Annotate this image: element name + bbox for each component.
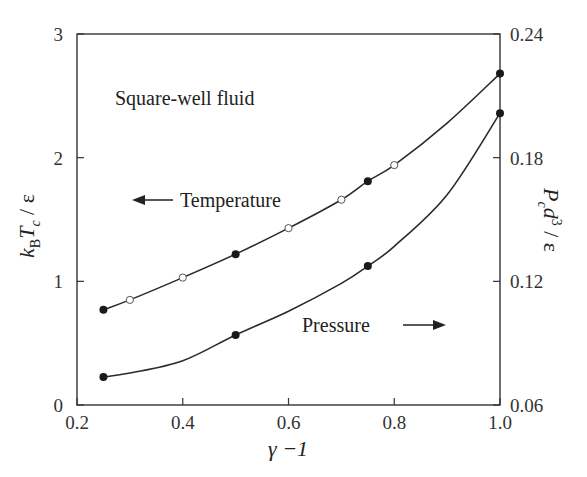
chart: 0.20.40.60.81.001230.060.120.180.24 Squa… (0, 0, 587, 477)
chart-annotation: Square-well fluid (115, 87, 254, 110)
y-right-tick-label: 0.12 (510, 271, 543, 292)
arrow-left-head-icon (132, 195, 145, 205)
temperature-label-group: Temperature (132, 189, 281, 212)
y-right-tick-label: 0.18 (510, 148, 543, 169)
svg-text:kBTc / ε: kBTc / ε (14, 194, 43, 258)
y-right-tick-label: 0.24 (510, 24, 544, 45)
temperature-filled-point (99, 306, 107, 314)
temperature-open-point (179, 274, 186, 281)
x-tick-label: 0.4 (171, 412, 195, 433)
y-axis-right-title: Pcd3 / ε (535, 187, 564, 252)
y-left-tick-label: 1 (54, 271, 64, 292)
pressure-filled-point (364, 262, 372, 270)
temperature-open-point (126, 296, 133, 303)
temperature-open-point (285, 225, 292, 232)
x-tick-label: 0.6 (277, 412, 301, 433)
pressure-curve (103, 113, 500, 377)
pressure-filled-point (232, 331, 240, 339)
pressure-filled-point (496, 109, 504, 117)
temperature-filled-point (232, 250, 240, 258)
y-left-tick-label: 0 (54, 395, 64, 416)
temperature-filled-point (496, 70, 504, 78)
temperature-label: Temperature (180, 189, 281, 212)
axis-ticks: 0.20.40.60.81.001230.060.120.180.24 (54, 24, 544, 433)
y-left-tick-label: 3 (54, 24, 64, 45)
svg-text:Pcd3 / ε: Pcd3 / ε (535, 187, 564, 252)
y-left-tick-label: 2 (54, 148, 64, 169)
temperature-curve (103, 74, 500, 310)
x-tick-label: 1.0 (488, 412, 512, 433)
y-axis-left-title: kBTc / ε (14, 194, 43, 258)
temperature-open-point (338, 196, 345, 203)
temperature-open-point (391, 161, 398, 168)
x-tick-label: 0.8 (382, 412, 406, 433)
pressure-label-group: Pressure (302, 314, 446, 336)
temperature-filled-point (364, 177, 372, 185)
x-tick-label: 0.2 (65, 412, 89, 433)
x-axis-title: γ −1 (268, 436, 308, 461)
pressure-filled-point (99, 373, 107, 381)
arrow-right-head-icon (433, 320, 446, 330)
pressure-label: Pressure (302, 314, 370, 336)
y-right-tick-label: 0.06 (510, 395, 543, 416)
